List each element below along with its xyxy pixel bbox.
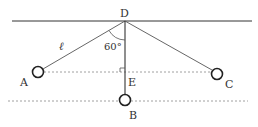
label-C: C (225, 78, 233, 91)
label-E: E (128, 76, 136, 89)
right-angle-mark (120, 68, 125, 72)
label-D: D (120, 7, 129, 20)
bob-C (212, 69, 223, 80)
bob-B (120, 95, 131, 106)
label-length: ℓ (59, 40, 64, 53)
label-A: A (19, 76, 29, 89)
string-DC (125, 21, 212, 70)
label-angle: 60° (104, 41, 122, 52)
pendulum-diagram: D A B C E ℓ 60° (0, 0, 258, 127)
angle-arc (109, 31, 125, 41)
label-B: B (129, 109, 137, 122)
bob-A (33, 67, 44, 78)
